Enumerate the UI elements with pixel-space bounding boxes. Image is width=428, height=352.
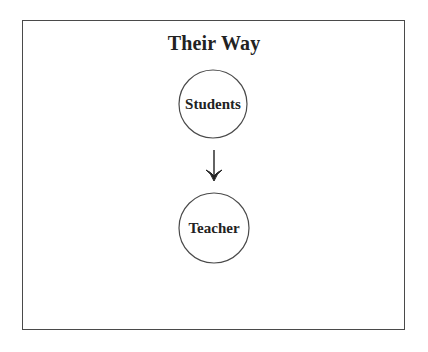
teacher-label: Teacher — [188, 220, 239, 236]
arrow-down-icon — [206, 150, 222, 181]
node-teacher: Teacher — [179, 193, 249, 263]
students-label: Students — [185, 96, 241, 112]
diagram-canvas: Students Teacher — [0, 0, 428, 352]
node-students: Students — [179, 70, 247, 138]
